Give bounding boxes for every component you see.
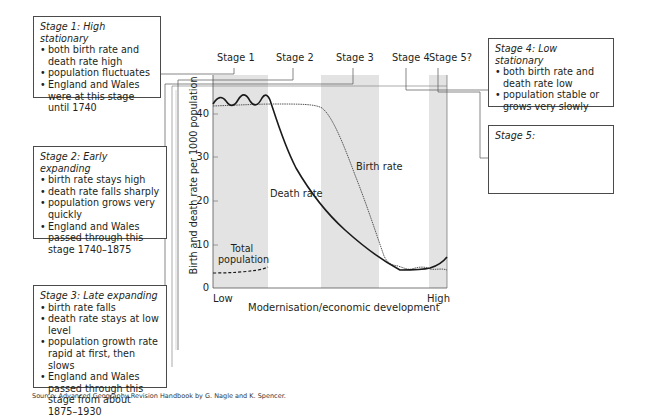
x-axis-label: Modernisation/economic development	[248, 302, 440, 313]
stage4-title: Stage 4: Low stationary	[495, 43, 607, 66]
stage-label-2: Stage 2	[276, 52, 314, 63]
source-note: Source: Advanced Geography Revision Hand…	[32, 392, 286, 400]
x-tick-low: Low	[213, 293, 233, 304]
stage5-shading	[429, 75, 447, 288]
stage1-box: Stage 1: High stationary both birth rate…	[33, 16, 161, 98]
stage4-bullet: population stable or grows very slowly	[495, 89, 607, 112]
stage3-bullet: birth rate falls	[40, 302, 160, 314]
stage4-box: Stage 4: Low stationary both birth rate …	[488, 38, 614, 107]
stage4-bullet: both birth rate and death rate low	[495, 66, 607, 89]
x-tick-high: High	[427, 293, 450, 304]
death-rate-annotation: Death rate	[270, 188, 323, 199]
stage1-title: Stage 1: High stationary	[40, 21, 154, 44]
stage2-box: Stage 2: Early expanding birth rate stay…	[33, 146, 167, 239]
stage2-bullet: England and Wales passed through this st…	[40, 221, 160, 256]
stage5-title: Stage 5:	[495, 130, 607, 142]
y-axis-label: Birth and death rate per 1000 population	[188, 71, 199, 281]
stage2-bullet: death rate falls sharply	[40, 186, 160, 198]
stage5-box: Stage 5:	[488, 125, 614, 194]
stage-label-5: Stage 5?	[429, 52, 472, 63]
stage-label-4: Stage 4	[392, 52, 430, 63]
stage3-bullet: population growth rate rapid at first, t…	[40, 336, 160, 371]
stage3-title: Stage 3: Late expanding	[40, 290, 160, 302]
svg-text:0: 0	[203, 282, 209, 293]
stage1-bullet: both birth rate and death rate high	[40, 44, 154, 67]
stage3-box: Stage 3: Late expanding birth rate falls…	[33, 285, 167, 388]
stage2-bullet: birth rate stays high	[40, 174, 160, 186]
stage-label-1: Stage 1	[217, 52, 255, 63]
stage2-title: Stage 2: Early expanding	[40, 151, 160, 174]
birth-rate-annotation: Birth rate	[356, 161, 403, 172]
stage-label-3: Stage 3	[336, 52, 374, 63]
stage3-bullet: death rate stays at low level	[40, 313, 160, 336]
stage2-bullet: population grows very quickly	[40, 197, 160, 220]
stage1-bullet: England and Wales were at this stage unt…	[40, 79, 154, 114]
total-population-annotation: Total population	[218, 243, 266, 265]
stage3-shading	[321, 75, 379, 288]
stage1-bullet: population fluctuates	[40, 67, 154, 79]
